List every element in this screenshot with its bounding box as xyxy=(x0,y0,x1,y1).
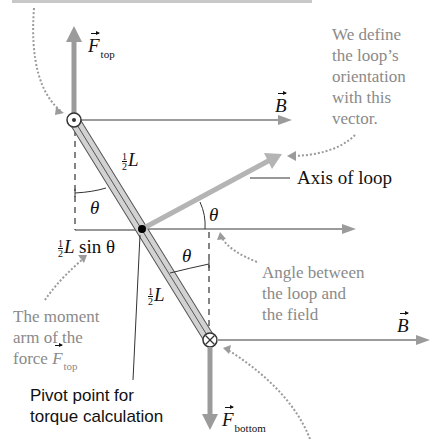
force-top-arrowhead xyxy=(66,26,82,42)
note-angle: Angle between the loop and the field xyxy=(262,262,364,325)
dotted-pointer-top-end-head xyxy=(55,107,64,115)
loop-axis-vector xyxy=(142,160,270,229)
label-pivot-point: Pivot point for torque calculation xyxy=(30,385,163,427)
label-theta-axis: θ xyxy=(209,205,218,224)
label-theta-bottom: θ xyxy=(182,246,191,265)
theta-arc-top xyxy=(75,188,106,193)
note-orientation: We define the loop’s orientation with th… xyxy=(332,24,406,129)
dotted-pointer-top-end xyxy=(33,8,62,112)
label-axis-of-loop: Axis of loop xyxy=(297,168,392,187)
label-moment-arm-expression: 12L sin θ xyxy=(58,237,115,258)
label-half-L-bottom: 12L xyxy=(148,285,165,306)
note-moment-arm: The moment arm of the force Ftop xyxy=(13,306,99,377)
theta-arc-axis xyxy=(200,202,205,229)
dotted-pointer-orientation xyxy=(290,135,355,156)
pivot-label-leader xyxy=(133,235,140,380)
label-half-L-top: 12L xyxy=(122,150,139,171)
pivot-point xyxy=(138,225,146,233)
label-theta-top: θ xyxy=(90,198,99,217)
current-out-of-page-icon xyxy=(67,113,81,127)
label-f-top: Ftop xyxy=(88,36,115,60)
current-into-page-icon xyxy=(203,333,217,347)
label-f-bottom: Fbottom xyxy=(222,410,266,434)
force-bottom-arrowhead xyxy=(202,414,218,430)
cropped-caption-remnant xyxy=(12,0,312,3)
dotted-pointer-moment-arm xyxy=(45,259,83,300)
dotted-pointer-angle xyxy=(222,238,257,262)
label-b-bottom: B xyxy=(397,316,409,335)
label-b-top: B xyxy=(275,96,287,115)
